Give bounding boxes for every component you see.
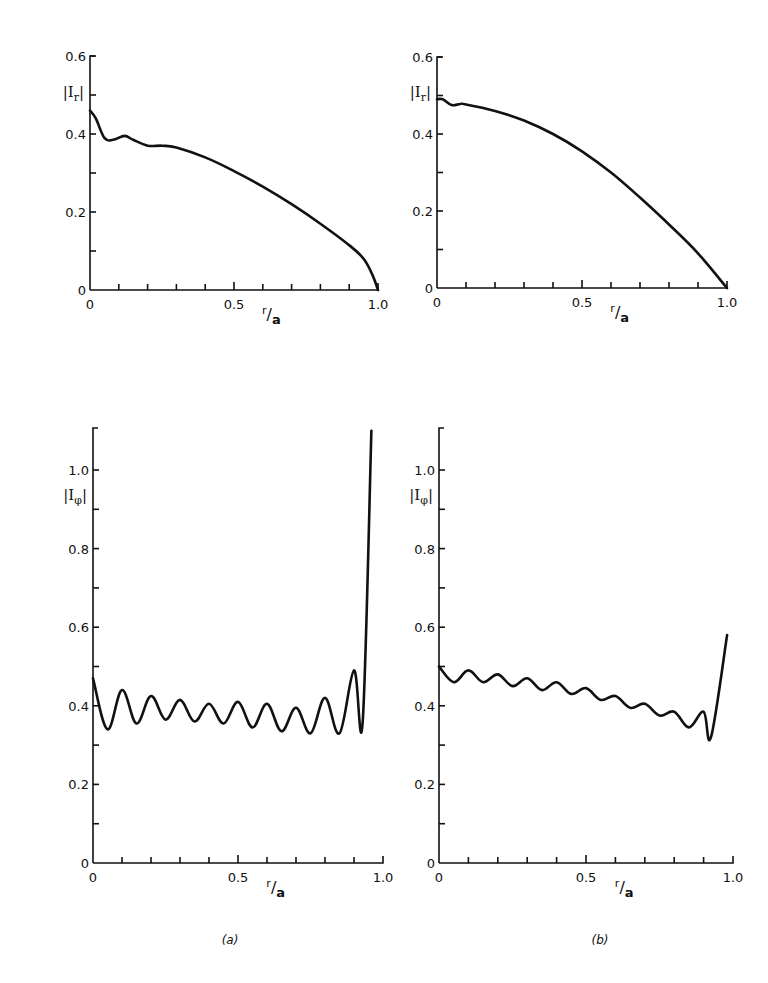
data-curve xyxy=(93,431,371,734)
y-tick-label: 0 xyxy=(81,856,89,871)
y-tick-label: 0.4 xyxy=(414,699,435,714)
data-curve xyxy=(437,99,727,288)
y-tick-label: 0.6 xyxy=(68,620,89,635)
x-tick-label: 0 xyxy=(86,297,94,312)
y-tick-label: 0.6 xyxy=(414,620,435,635)
chart-panel-a-bottom: 00.20.40.60.81.000.51.0r/a|Iφ| xyxy=(63,428,393,900)
y-tick-label: 0.6 xyxy=(412,50,433,65)
y-tick-label: 0.2 xyxy=(68,777,89,792)
y-axis-label: |Ir| xyxy=(410,83,431,104)
chart-panel-a-top: 00.20.40.600.51.0r/a|Ir| xyxy=(63,49,389,327)
y-tick-label: 0.4 xyxy=(68,699,89,714)
caption-a: (a) xyxy=(222,933,239,947)
x-axis-label: r/a xyxy=(262,304,281,327)
y-tick-label: 0.2 xyxy=(65,205,86,220)
x-tick-label: 1.0 xyxy=(717,295,738,310)
y-tick-label: 1.0 xyxy=(68,463,89,478)
x-tick-label: 0.5 xyxy=(224,297,245,312)
x-tick-label: 0.5 xyxy=(228,870,249,885)
x-tick-label: 0 xyxy=(435,870,443,885)
y-axis-label: |Iφ| xyxy=(63,486,87,507)
y-tick-label: 1.0 xyxy=(414,463,435,478)
caption-b: (b) xyxy=(592,933,609,947)
x-tick-label: 0.5 xyxy=(572,295,593,310)
x-axis-label: r/a xyxy=(615,877,634,900)
x-tick-label: 1.0 xyxy=(723,870,744,885)
x-tick-label: 0 xyxy=(89,870,97,885)
data-curve xyxy=(90,111,378,290)
chart-panel-b-top: 00.20.40.600.51.0r/a|Ir| xyxy=(410,50,738,325)
y-tick-label: 0.4 xyxy=(65,127,86,142)
y-tick-label: 0.2 xyxy=(414,777,435,792)
x-tick-label: 1.0 xyxy=(368,297,389,312)
y-tick-label: 0 xyxy=(427,856,435,871)
y-tick-label: 0 xyxy=(78,283,86,298)
x-tick-label: 1.0 xyxy=(373,870,394,885)
y-tick-label: 0.2 xyxy=(412,204,433,219)
x-tick-label: 0.5 xyxy=(576,870,597,885)
chart-panel-b-bottom: 00.20.40.60.81.000.51.0r/a|Iφ| xyxy=(409,428,743,900)
y-axis xyxy=(439,428,444,863)
y-tick-label: 0.8 xyxy=(68,542,89,557)
x-axis-label: r/a xyxy=(610,302,629,325)
y-tick-label: 0.8 xyxy=(414,542,435,557)
y-tick-label: 0 xyxy=(425,281,433,296)
y-axis-label: |Ir| xyxy=(63,83,84,104)
data-curve xyxy=(439,635,727,740)
y-axis xyxy=(93,428,98,863)
y-axis-label: |Iφ| xyxy=(409,486,433,507)
figure: 00.20.40.600.51.0r/a|Ir|00.20.40.600.51.… xyxy=(0,0,768,983)
x-axis-label: r/a xyxy=(266,877,285,900)
x-tick-label: 0 xyxy=(433,295,441,310)
y-tick-label: 0.6 xyxy=(65,49,86,64)
y-tick-label: 0.4 xyxy=(412,127,433,142)
